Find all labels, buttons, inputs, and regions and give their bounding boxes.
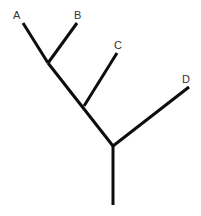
tree-canvas: A B C D <box>0 0 201 216</box>
leaf-label-b: B <box>74 9 81 21</box>
branch-d <box>113 87 189 146</box>
leaf-label-d: D <box>182 73 190 85</box>
phylogenetic-tree: A B C D <box>0 0 201 216</box>
leaf-label-c: C <box>114 39 122 51</box>
branch-b <box>48 23 77 63</box>
branch-c <box>84 53 117 106</box>
branch-a <box>23 23 48 63</box>
leaf-label-a: A <box>13 9 21 21</box>
